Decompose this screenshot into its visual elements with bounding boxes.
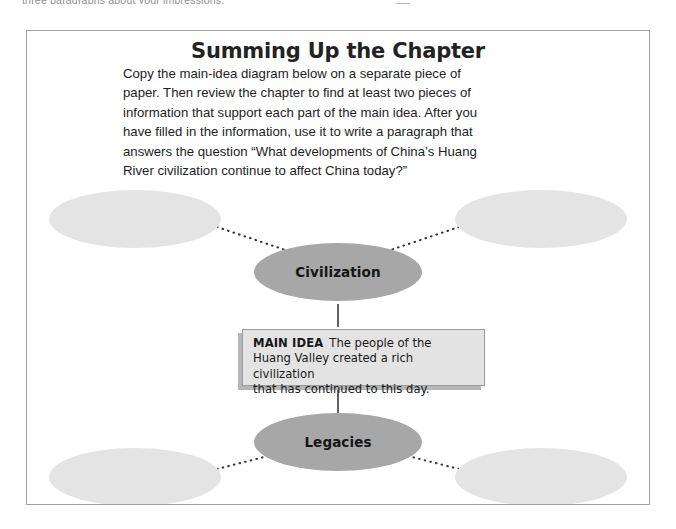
main-idea-line-3: that has continued to this day. [253, 382, 429, 396]
summing-up-panel: Summing Up the Chapter Copy the main-ide… [26, 30, 650, 505]
main-idea-box[interactable]: MAIN IDEAThe people of the Huang Valley … [242, 329, 485, 386]
clipped-top-rule [396, 3, 410, 4]
instructions-line-4: have filled in the information, use it t… [123, 124, 473, 139]
blank-oval-top-left[interactable] [49, 190, 221, 248]
page-title: Summing Up the Chapter [27, 39, 649, 63]
instructions-line-2: paper. Then review the chapter to find a… [123, 85, 471, 100]
node-label-legacies: Legacies [27, 434, 649, 450]
instructions-paragraph: Copy the main-idea diagram below on a se… [123, 64, 535, 180]
main-idea-label: MAIN IDEA [253, 336, 323, 350]
instructions-line-1: Copy the main-idea diagram below on a se… [123, 66, 461, 81]
node-label-civilization: Civilization [27, 264, 649, 280]
main-idea-line-1: The people of the [329, 336, 431, 350]
clipped-top-text: three paragraphs about your impressions. [22, 0, 352, 4]
blank-oval-bottom-left[interactable] [49, 448, 221, 504]
instructions-line-3: information that support each part of th… [123, 105, 477, 120]
instructions-line-5: answers the question “What developments … [123, 144, 477, 159]
main-idea-line-2: Huang Valley created a rich civilization [253, 351, 413, 380]
blank-oval-bottom-right[interactable] [455, 448, 627, 504]
main-idea-box-text: MAIN IDEAThe people of the Huang Valley … [253, 336, 476, 398]
blank-oval-top-right[interactable] [455, 190, 627, 248]
